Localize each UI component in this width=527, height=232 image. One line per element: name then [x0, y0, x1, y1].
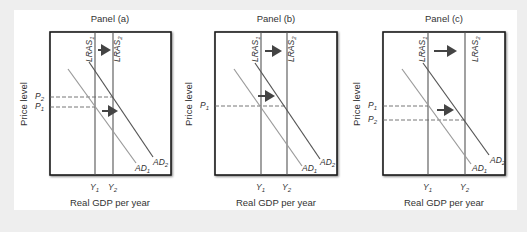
- p2-label: P2: [368, 114, 378, 125]
- panel-b-xlabel: Real GDP per year: [236, 197, 316, 208]
- lras1-label: LRAS1: [417, 36, 428, 62]
- y2-label: Y2: [108, 182, 118, 193]
- y1-label: Y1: [90, 182, 99, 193]
- panel-b-frame: [215, 32, 337, 175]
- panel-a: Panel (a) Price level Real GDP per year …: [18, 13, 171, 208]
- panel-b: Panel (b) Price level Real GDP per year …: [183, 13, 337, 208]
- panel-a-xlabel: Real GDP per year: [70, 197, 150, 208]
- lras1-label: LRAS1: [84, 36, 95, 62]
- y1-label: Y1: [256, 182, 265, 193]
- y1-label: Y1: [423, 182, 432, 193]
- chart-figure: Panel (a) Price level Real GDP per year …: [0, 0, 527, 232]
- panel-c-title: Panel (c): [425, 13, 463, 24]
- panel-c-frame: [383, 32, 505, 175]
- panel-c: Panel (c) Price level Real GDP per year …: [351, 13, 506, 208]
- y2-label: Y2: [460, 182, 470, 193]
- p1-label: P1: [200, 100, 209, 111]
- panel-c-xlabel: Real GDP per year: [404, 197, 484, 208]
- p1-label: P1: [368, 100, 377, 111]
- panel-c-ylabel: Price level: [351, 82, 362, 126]
- panel-a-ylabel: Price level: [18, 82, 29, 126]
- p1-label: P1: [35, 101, 44, 112]
- panel-b-title: Panel (b): [257, 13, 296, 24]
- panel-a-title: Panel (a): [91, 13, 130, 24]
- y2-label: Y2: [282, 182, 292, 193]
- lras1-label: LRAS1: [250, 36, 261, 62]
- panel-a-frame: [50, 32, 171, 175]
- panel-b-ylabel: Price level: [183, 82, 194, 126]
